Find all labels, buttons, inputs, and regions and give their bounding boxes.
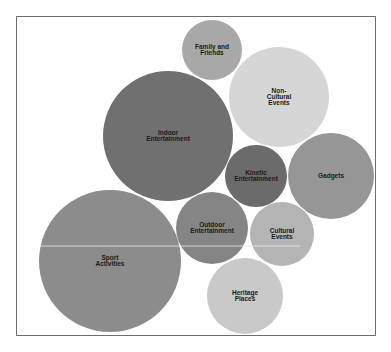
bubble-label: CulturalEvents bbox=[270, 227, 295, 240]
bubble-non-cultural-events: Non-CulturalEvents bbox=[229, 47, 329, 147]
bubble-indoor-entertainment: IndoorEntertainment bbox=[103, 71, 233, 201]
bubble-family-and-friends: Family andFriends bbox=[182, 20, 242, 80]
bubble-label: HeritagePlaces bbox=[232, 289, 258, 302]
bubble-cultural-events: CulturalEvents bbox=[250, 202, 314, 266]
bubble-heritage-places: HeritagePlaces bbox=[207, 258, 283, 334]
bubble-outdoor-entertainment: OutdoorEntertainment bbox=[176, 192, 248, 264]
bubbles-group: Family andFriendsNon-CulturalEventsIndoo… bbox=[39, 20, 374, 334]
bubble-sport-activities: SportActivities bbox=[39, 190, 181, 332]
bubble-chart: Family andFriendsNon-CulturalEventsIndoo… bbox=[0, 0, 391, 352]
bubble-label: Gadgets bbox=[318, 172, 344, 180]
bubble-gadgets: Gadgets bbox=[288, 133, 374, 219]
bubble-kinetic-entertainment: KineticEntertainment bbox=[225, 145, 287, 207]
